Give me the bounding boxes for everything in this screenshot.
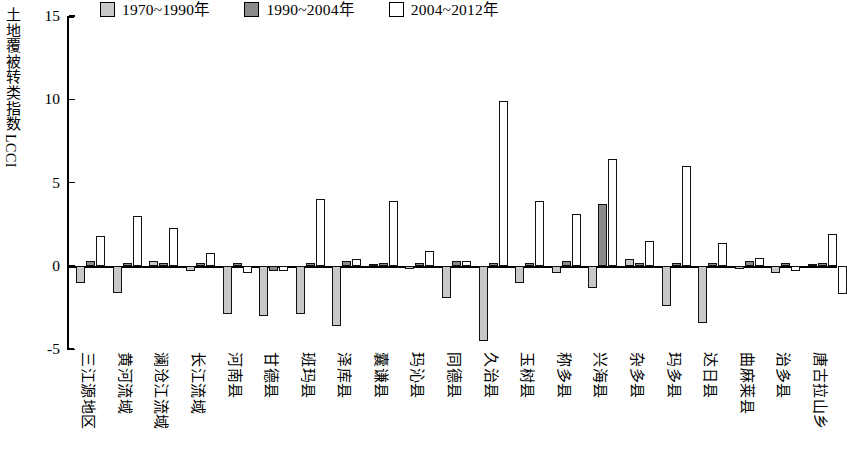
x-axis-label: 河南县	[226, 352, 241, 399]
x-axis-label: 玉树县	[519, 352, 534, 399]
bar	[133, 216, 142, 266]
x-axis-label: 同德县	[446, 352, 461, 399]
bar	[535, 201, 544, 266]
legend-item-1990-2004: 1990~2004年	[244, 2, 354, 17]
bar	[838, 266, 847, 294]
bar	[552, 266, 561, 273]
bar	[645, 241, 654, 266]
bar	[96, 236, 105, 266]
legend-swatch-icon	[244, 2, 259, 17]
bar-group	[581, 16, 618, 350]
bar	[489, 263, 498, 266]
bar	[425, 251, 434, 266]
bar	[625, 259, 634, 266]
bar	[306, 263, 315, 266]
x-axis-label-cell: 河南县	[215, 352, 252, 473]
bar	[233, 263, 242, 266]
x-axis-label: 长江流域	[190, 352, 205, 414]
y-axis-title-char: 覆	[2, 39, 24, 55]
x-axis-label: 兴海县	[592, 352, 607, 399]
bar	[415, 263, 424, 266]
bar	[452, 261, 461, 266]
x-axis-label-cell: 囊谦县	[362, 352, 399, 473]
y-axis-title-char: 数	[2, 117, 24, 133]
bar	[818, 263, 827, 266]
bar	[662, 266, 671, 306]
bar	[808, 264, 817, 266]
chart-legend: 1970~1990年 1990~2004年 2004~2012年	[100, 2, 499, 17]
bar	[672, 263, 681, 266]
x-axis-label-cell: 甘德县	[252, 352, 289, 473]
y-axis-tick-label: 5	[20, 175, 60, 190]
bar	[562, 261, 571, 266]
x-axis-label-cell: 玛沁县	[398, 352, 435, 473]
bar	[379, 263, 388, 266]
bar	[186, 266, 195, 271]
legend-label: 1990~2004年	[266, 2, 354, 17]
y-axis-title-cjk: 土地覆被转类指数	[2, 8, 24, 133]
x-axis-label-cell: 泽库县	[325, 352, 362, 473]
x-axis-label: 杂多县	[628, 352, 643, 399]
bar	[442, 266, 451, 298]
bar	[499, 101, 508, 266]
bar	[708, 263, 717, 266]
y-axis-title-latin: LCCI	[2, 134, 18, 168]
x-axis-label-cell: 达日县	[691, 352, 728, 473]
bar-group	[215, 16, 252, 350]
x-axis-label: 玛沁县	[409, 352, 424, 399]
legend-label: 2004~2012年	[411, 2, 499, 17]
bar	[389, 201, 398, 266]
legend-item-1970-1990: 1970~1990年	[100, 2, 210, 17]
bar-group	[288, 16, 325, 350]
bar-group	[764, 16, 801, 350]
x-axis-label: 称多县	[555, 352, 570, 399]
bar-group	[179, 16, 216, 350]
bar	[479, 266, 488, 341]
x-axis-label-cell: 治多县	[764, 352, 801, 473]
legend-swatch-icon	[100, 2, 115, 17]
bar-group	[142, 16, 179, 350]
x-axis-label: 三江源地区	[80, 352, 95, 430]
x-axis-labels: 三江源地区黄河流域澜沧江流域长江流域河南县甘德县班玛县泽库县囊谦县玛沁县同德县久…	[69, 352, 837, 473]
x-axis-label: 班玛县	[299, 352, 314, 399]
bar	[598, 204, 607, 266]
x-axis-label-cell: 澜沧江流域	[142, 352, 179, 473]
x-axis-label-cell: 玉树县	[508, 352, 545, 473]
bar	[86, 261, 95, 266]
x-axis-label-cell: 三江源地区	[69, 352, 106, 473]
y-axis-title-char: 地	[2, 24, 24, 40]
bar-group	[508, 16, 545, 350]
bar	[698, 266, 707, 323]
bar	[588, 266, 597, 288]
x-axis-label: 甘德县	[263, 352, 278, 399]
bar	[206, 253, 215, 266]
bar	[755, 258, 764, 266]
bar	[405, 266, 414, 269]
bar-group	[654, 16, 691, 350]
x-axis-label-cell: 称多县	[545, 352, 582, 473]
bar	[781, 263, 790, 266]
plot-area	[67, 16, 837, 350]
bar-group	[801, 16, 838, 350]
x-axis-label-cell: 曲麻莱县	[727, 352, 764, 473]
bar-group	[398, 16, 435, 350]
y-axis-tick-label: 10	[20, 91, 60, 106]
x-axis-label-cell: 同德县	[435, 352, 472, 473]
x-axis-label: 达日县	[702, 352, 717, 399]
bar	[718, 243, 727, 266]
bar	[316, 199, 325, 266]
bar	[296, 266, 305, 314]
bar-group	[362, 16, 399, 350]
bar	[682, 166, 691, 266]
bar	[572, 214, 581, 266]
x-axis-label-cell: 唐古拉山乡	[801, 352, 838, 473]
x-axis-label-cell: 久治县	[471, 352, 508, 473]
bar	[259, 266, 268, 316]
bar	[352, 259, 361, 266]
bar	[525, 263, 534, 266]
x-axis-label-cell: 兴海县	[581, 352, 618, 473]
x-axis-label: 澜沧江流域	[153, 352, 168, 430]
x-axis-label: 唐古拉山乡	[811, 352, 826, 430]
bar	[369, 264, 378, 266]
